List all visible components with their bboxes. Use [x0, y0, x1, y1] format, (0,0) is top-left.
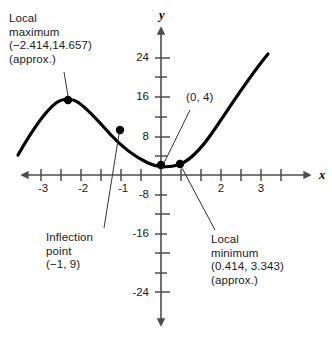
x-tick-label-neg3: -3	[33, 182, 53, 194]
annotation-local-minimum: Local minimum (0.414, 3.343) (approx.)	[211, 233, 284, 287]
x-tick-label-neg2: -2	[73, 182, 93, 194]
y-axis-label: y	[159, 8, 165, 23]
point-inflection	[116, 126, 124, 134]
x-tick-label-2: 2	[214, 182, 228, 194]
annotation-local-minimum-line2: minimum	[211, 247, 284, 261]
leader-local-maximum	[64, 72, 68, 96]
annotation-local-maximum-line3: (−2.414,14.657)	[9, 39, 92, 53]
point-local-maximum	[64, 96, 72, 104]
cubic-curve	[18, 54, 268, 167]
y-tick-label-neg24: -24	[117, 286, 149, 298]
annotation-local-maximum: Local maximum (−2.414,14.657) (approx.)	[9, 12, 92, 66]
y-tick-label-16: 16	[126, 90, 149, 102]
annotation-inflection-line3: (−1, 9)	[46, 258, 93, 272]
x-tick-label-3: 3	[254, 182, 268, 194]
y-tick-label-neg16: -16	[117, 227, 149, 239]
leader-local-minimum	[182, 168, 215, 230]
annotation-inflection-line1: Inflection	[46, 231, 93, 245]
annotation-inflection-line2: point	[46, 245, 93, 259]
annotation-local-minimum-line4: (approx.)	[211, 274, 284, 288]
figure-container: y x -3 -2 -1 2 3 8 16 24 -8 -16 -24 Loca…	[0, 0, 332, 339]
annotation-local-minimum-line1: Local	[211, 233, 284, 247]
y-tick-label-24: 24	[126, 51, 149, 63]
annotation-inflection-point: Inflection point (−1, 9)	[46, 231, 93, 272]
annotation-y-intercept-line1: (0, 4)	[186, 91, 213, 105]
annotation-y-intercept: (0, 4)	[186, 91, 213, 105]
leader-inflection	[104, 134, 119, 228]
y-tick-label-8: 8	[131, 130, 149, 142]
annotation-local-minimum-line3: (0.414, 3.343)	[211, 260, 284, 274]
x-axis-label: x	[319, 168, 325, 183]
y-tick-label-neg8: -8	[122, 188, 149, 200]
annotation-local-maximum-line2: maximum	[9, 26, 92, 40]
annotation-local-maximum-line4: (approx.)	[9, 53, 92, 67]
point-local-minimum	[176, 160, 184, 168]
annotation-local-maximum-line1: Local	[9, 12, 92, 26]
